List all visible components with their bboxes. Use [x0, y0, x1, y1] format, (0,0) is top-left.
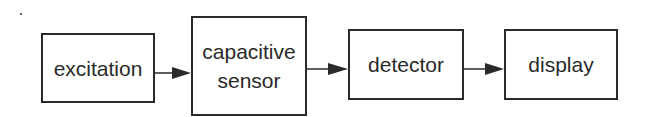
arrowhead-icon [485, 63, 504, 75]
connector-arrows [0, 0, 652, 117]
arrowhead-icon [172, 67, 191, 79]
arrowhead-icon [328, 63, 348, 75]
